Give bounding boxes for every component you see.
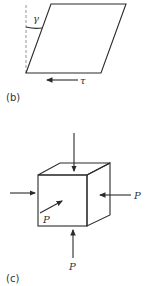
tau-label: τ [80,75,86,86]
gamma-angle-arc [26,27,42,28]
front-force-arrow [40,201,62,213]
diagram-canvas: γ τ (b) P P P (c) [0,0,150,286]
figure-c-caption: (c) [6,273,19,284]
figure-b-caption: (b) [6,92,20,103]
front-force-label: P [42,214,50,225]
sheared-parallelogram [26,4,126,73]
gamma-label: γ [33,13,39,24]
figure-b: γ τ (b) [6,4,126,103]
figure-c: P P P (c) [6,133,141,284]
right-force-label: P [133,190,141,201]
bottom-force-label: P [68,261,76,272]
